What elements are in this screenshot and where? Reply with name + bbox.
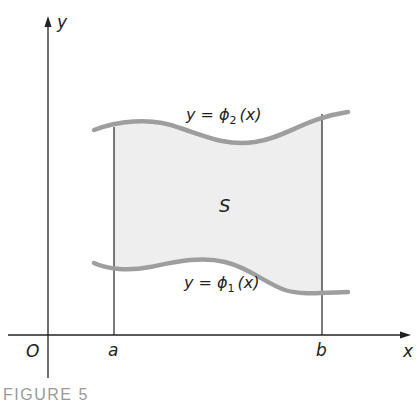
y-axis-label: y bbox=[56, 12, 68, 32]
lower-curve-label: y = ϕ1(x) bbox=[183, 273, 260, 295]
y-axis-arrow-icon bbox=[45, 16, 52, 27]
x-axis-arrow-icon bbox=[400, 332, 411, 339]
figure-caption: FIGURE 5 bbox=[3, 386, 89, 404]
region-label-s: S bbox=[219, 195, 230, 216]
origin-label: O bbox=[26, 341, 39, 361]
upper-curve-label: y = ϕ2(x) bbox=[185, 105, 262, 127]
region-diagram: y = ϕ2(x) y = ϕ1(x) S y x O a b bbox=[0, 0, 416, 407]
x-axis-label: x bbox=[402, 341, 414, 361]
bound-label-b: b bbox=[316, 340, 327, 360]
bound-label-a: a bbox=[108, 340, 118, 360]
